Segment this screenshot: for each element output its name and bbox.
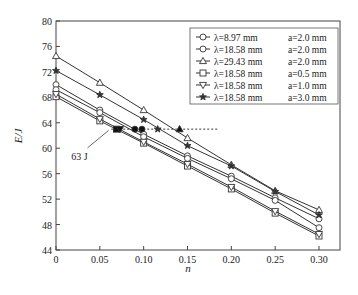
legend-lambda: λ=18.58 mm — [214, 69, 263, 79]
legend-square-icon — [200, 70, 206, 76]
data-point — [184, 134, 191, 140]
legend-circle-icon — [200, 34, 206, 40]
x-tick-label: 0.25 — [266, 254, 284, 265]
intersection-marker — [139, 126, 145, 132]
data-point — [185, 155, 191, 161]
data-point — [53, 52, 60, 58]
legend-lambda: λ=18.58 mm — [214, 81, 263, 91]
series-5 — [53, 92, 323, 238]
series-line — [56, 85, 319, 219]
intersection-marker — [132, 126, 138, 132]
x-tick-label: 0.30 — [310, 254, 328, 265]
data-point — [228, 176, 234, 182]
x-tick-label: 0.10 — [135, 254, 153, 265]
y-tick-label: 48 — [42, 220, 52, 231]
x-tick-label: 0.05 — [91, 254, 109, 265]
legend-item: λ=18.58 mma=1.0 mm — [196, 81, 327, 91]
data-point — [97, 110, 103, 116]
annotation-leader — [88, 130, 109, 147]
legend-a: a=2.0 mm — [288, 45, 327, 55]
y-axis-label: E/J — [12, 128, 24, 145]
legend-item: λ=18.58 mma=2.0 mm — [196, 45, 327, 55]
data-point — [96, 79, 103, 85]
x-tick-label: 0 — [54, 254, 59, 265]
legend-a: a=2.0 mm — [288, 33, 327, 43]
legend: λ=8.97 mma=2.0 mmλ=18.58 mma=2.0 mmλ=29.… — [190, 28, 338, 104]
data-point — [184, 142, 191, 149]
x-axis-label: n — [185, 262, 191, 274]
legend-lambda: λ=29.43 mm — [214, 57, 263, 67]
y-tick-label: 76 — [42, 41, 52, 52]
annotation-63j-label: 63 J — [71, 151, 88, 162]
legend-lambda: λ=18.58 mm — [214, 45, 263, 55]
y-tick-label: 80 — [42, 16, 52, 27]
legend-lambda: λ=18.58 mm — [214, 93, 263, 103]
legend-lambda: λ=8.97 mm — [214, 33, 258, 43]
series-2 — [53, 87, 322, 231]
data-point — [316, 225, 322, 231]
x-tick-label: 0.20 — [223, 254, 241, 265]
legend-item: λ=29.43 mma=2.0 mm — [196, 57, 327, 67]
data-point — [272, 197, 278, 203]
y-tick-label: 64 — [42, 118, 52, 129]
y-tick-label: 52 — [42, 194, 52, 205]
line-chart: 00.050.100.150.200.250.30444852566064687… — [0, 0, 358, 295]
data-point — [140, 106, 147, 112]
y-tick-label: 44 — [42, 245, 52, 256]
legend-item: λ=18.58 mma=3.0 mm — [196, 93, 327, 103]
y-tick-label: 72 — [42, 67, 52, 78]
legend-a: a=2.0 mm — [288, 57, 327, 67]
legend-item: λ=18.58 mma=0.5 mm — [196, 69, 327, 79]
legend-a: a=1.0 mm — [288, 81, 327, 91]
y-tick-label: 60 — [42, 143, 52, 154]
legend-circle-icon — [200, 46, 206, 52]
data-point — [53, 67, 60, 74]
legend-a: a=3.0 mm — [288, 93, 327, 103]
intersection-marker — [176, 126, 183, 132]
y-tick-label: 56 — [42, 169, 52, 180]
y-tick-label: 68 — [42, 92, 52, 103]
legend-a: a=0.5 mm — [288, 69, 327, 79]
